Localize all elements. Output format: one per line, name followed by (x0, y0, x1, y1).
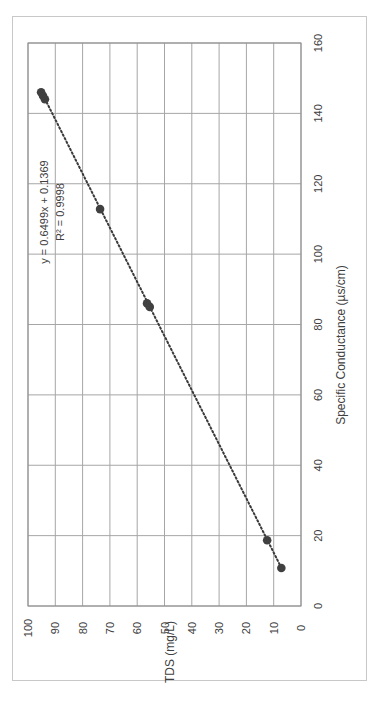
x-axis-title: Specific Conductance (µs/cm) (334, 265, 348, 425)
scatter-chart: 020406080100120140160 010203040506070809… (0, 0, 377, 703)
x-tick-label: 60 (312, 389, 324, 401)
x-tick-label: 140 (312, 104, 324, 122)
x-tick-label: 0 (312, 603, 324, 609)
y-tick-label: 10 (268, 622, 280, 634)
data-point (96, 205, 105, 214)
data-point (143, 299, 152, 308)
y-axis-title: TDS (mg/L) (163, 621, 177, 683)
x-tick-label: 40 (312, 459, 324, 471)
chart-container: 020406080100120140160 010203040506070809… (0, 0, 377, 703)
y-tick-label: 30 (213, 622, 225, 634)
y-tick-label: 60 (131, 622, 143, 634)
y-tick-label: 20 (240, 622, 252, 634)
y-tick-label: 40 (186, 622, 198, 634)
y-tick-label: 0 (295, 625, 307, 631)
data-point (263, 536, 272, 545)
x-tick-label: 160 (312, 34, 324, 52)
x-tick-label: 100 (312, 245, 324, 263)
y-tick-label: 70 (104, 622, 116, 634)
x-tick-label: 20 (312, 530, 324, 542)
x-tick-label: 120 (312, 175, 324, 193)
x-tick-label: 80 (312, 318, 324, 330)
y-tick-label: 80 (77, 622, 89, 634)
y-tick-label: 100 (22, 619, 34, 637)
r-squared-label: R² = 0.9998 (54, 183, 66, 241)
trendline-equation: y = 0.6499x + 0.1369 (38, 160, 50, 263)
data-point (277, 564, 286, 573)
data-point (37, 88, 46, 97)
y-tick-label: 90 (49, 622, 61, 634)
